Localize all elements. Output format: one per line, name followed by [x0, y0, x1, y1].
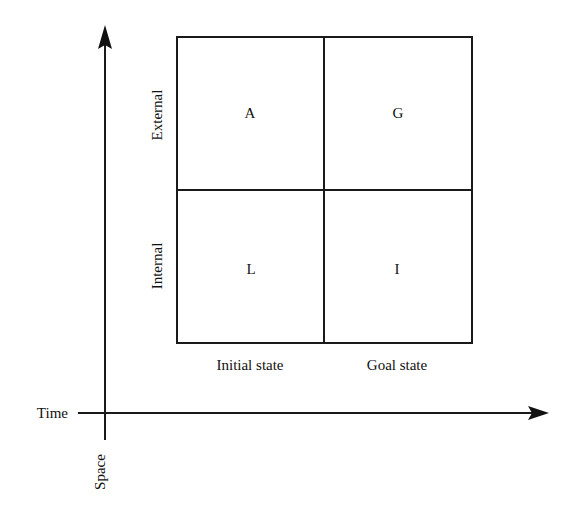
column-label-goal-state: Goal state: [367, 357, 428, 373]
column-label-initial-state: Initial state: [216, 357, 283, 373]
vertical-axis: [98, 25, 112, 440]
time-axis-label: Time: [37, 405, 68, 421]
agil-diagram: Time Space External Internal Initial sta…: [0, 0, 578, 520]
cell-letter-a: A: [245, 105, 256, 121]
cell-letter-i: I: [395, 261, 400, 277]
space-axis-label: Space: [92, 454, 108, 490]
row-label-internal: Internal: [149, 243, 165, 290]
matrix-grid: [177, 37, 472, 343]
horizontal-axis: [78, 406, 549, 420]
cell-letter-g: G: [393, 105, 404, 121]
row-label-external: External: [149, 90, 165, 141]
cell-letter-l: L: [246, 261, 255, 277]
